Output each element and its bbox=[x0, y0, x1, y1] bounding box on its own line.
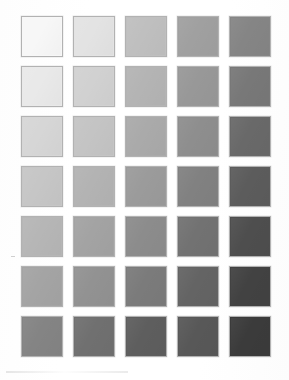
swatch-r6-c5: #424242 bbox=[229, 266, 271, 307]
swatch-value-label: #4e4e4e bbox=[230, 217, 231, 218]
swatch-value-label: #b4b4b4 bbox=[126, 67, 127, 68]
swatch-value-label: #646464 bbox=[178, 267, 179, 268]
swatch-value-label: #7b7b7b bbox=[126, 267, 127, 268]
swatch-value-label: #727272 bbox=[178, 217, 179, 218]
swatch-r1-c4: #a0a0a0 bbox=[177, 16, 219, 57]
swatch-value-label: #d1d1d1 bbox=[74, 67, 75, 68]
swatch-r5-c5: #4e4e4e bbox=[229, 216, 271, 257]
swatch-r1-c5: #858585 bbox=[229, 16, 271, 57]
swatch-r2-c2: #d1d1d1 bbox=[73, 66, 115, 107]
swatch-r1-c3: #bfbfbf bbox=[125, 16, 167, 57]
swatch-value-label: #d6d6d6 bbox=[22, 117, 23, 118]
swatch-value-label: #b3b3b3 bbox=[74, 167, 75, 168]
swatch-r7-c1: #848484 bbox=[21, 316, 63, 357]
swatch-r3-c3: #aaaaaa bbox=[125, 116, 167, 157]
swatch-r6-c1: #a4a4a4 bbox=[21, 266, 63, 307]
swatch-value-label: #585858 bbox=[178, 317, 179, 318]
swatch-r5-c2: #a3a3a3 bbox=[73, 216, 115, 257]
swatch-value-label: #b6b6b6 bbox=[22, 217, 23, 218]
swatch-value-label: #8e8e8e bbox=[178, 117, 179, 118]
swatch-r7-c2: #707070 bbox=[73, 316, 115, 357]
swatch-r2-c1: #e9e9e9 bbox=[21, 66, 63, 107]
swatch-value-label: #e3e3e3 bbox=[74, 17, 75, 18]
swatch-value-label: #3b3b3b bbox=[230, 317, 231, 318]
swatch-value-label: #a0a0a0 bbox=[178, 17, 179, 18]
swatch-value-label: #9b9b9b bbox=[126, 167, 127, 168]
swatch-value-label: #c4c4c4 bbox=[74, 117, 75, 118]
swatch-r6-c2: #929292 bbox=[73, 266, 115, 307]
swatch-r1-c2: #e3e3e3 bbox=[73, 16, 115, 57]
swatch-r4-c2: #b3b3b3 bbox=[73, 166, 115, 207]
swatch-r2-c4: #989898 bbox=[177, 66, 219, 107]
swatch-r3-c2: #c4c4c4 bbox=[73, 116, 115, 157]
swatch-value-label: #a4a4a4 bbox=[22, 267, 23, 268]
swatch-r3-c4: #8e8e8e bbox=[177, 116, 219, 157]
swatch-r7-c3: #5e5e5e bbox=[125, 316, 167, 357]
swatch-r7-c5: #3b3b3b bbox=[229, 316, 271, 357]
swatch-r6-c3: #7b7b7b bbox=[125, 266, 167, 307]
swatch-value-label: #c6c6c6 bbox=[22, 167, 23, 168]
swatch-value-label: #707070 bbox=[74, 317, 75, 318]
swatch-r5-c1: #b6b6b6 bbox=[21, 216, 63, 257]
swatch-value-label: #929292 bbox=[74, 267, 75, 268]
swatch-r2-c5: #787878 bbox=[229, 66, 271, 107]
swatch-value-label: #a3a3a3 bbox=[74, 217, 75, 218]
swatch-grid: #f7f7f7#e3e3e3#bfbfbf#a0a0a0#858585#e9e9… bbox=[21, 16, 271, 357]
swatch-r2-c3: #b4b4b4 bbox=[125, 66, 167, 107]
swatch-r5-c3: #8c8c8c bbox=[125, 216, 167, 257]
swatch-r3-c5: #696969 bbox=[229, 116, 271, 157]
swatch-value-label: #858585 bbox=[230, 17, 231, 18]
swatch-value-label: #8c8c8c bbox=[126, 217, 127, 218]
swatch-value-label: #696969 bbox=[230, 117, 231, 118]
swatch-value-label: #e9e9e9 bbox=[22, 67, 23, 68]
swatch-value-label: #424242 bbox=[230, 267, 231, 268]
grayscale-swatch-chart: #f7f7f7#e3e3e3#bfbfbf#a0a0a0#858585#e9e9… bbox=[0, 0, 289, 380]
swatch-value-label: #bfbfbf bbox=[126, 17, 127, 18]
scan-artifact-left-tick bbox=[11, 256, 15, 257]
swatch-r7-c4: #585858 bbox=[177, 316, 219, 357]
scan-artifact-bottom-smudge bbox=[6, 371, 128, 373]
swatch-value-label: #989898 bbox=[178, 67, 179, 68]
swatch-value-label: #787878 bbox=[230, 67, 231, 68]
swatch-r4-c3: #9b9b9b bbox=[125, 166, 167, 207]
swatch-value-label: #5c5c5c bbox=[230, 167, 231, 168]
swatch-value-label: #aaaaaa bbox=[126, 117, 127, 118]
swatch-r1-c1: #f7f7f7 bbox=[21, 16, 63, 57]
swatch-r5-c4: #727272 bbox=[177, 216, 219, 257]
swatch-r6-c4: #646464 bbox=[177, 266, 219, 307]
swatch-r4-c5: #5c5c5c bbox=[229, 166, 271, 207]
swatch-value-label: #848484 bbox=[22, 317, 23, 318]
swatch-value-label: #5e5e5e bbox=[126, 317, 127, 318]
swatch-r4-c1: #c6c6c6 bbox=[21, 166, 63, 207]
swatch-value-label: #818181 bbox=[178, 167, 179, 168]
swatch-r4-c4: #818181 bbox=[177, 166, 219, 207]
swatch-r3-c1: #d6d6d6 bbox=[21, 116, 63, 157]
swatch-value-label: #f7f7f7 bbox=[22, 17, 23, 18]
